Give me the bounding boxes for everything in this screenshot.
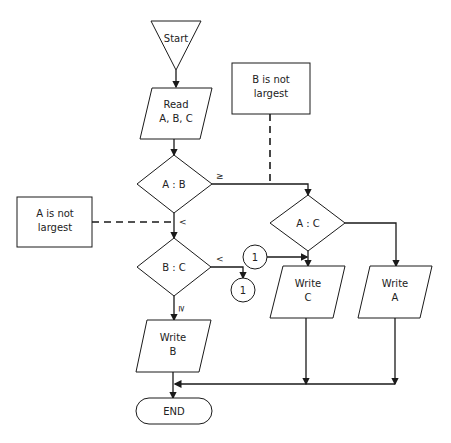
write-b-line2: B <box>170 346 177 357</box>
start-terminal: Start <box>151 21 201 70</box>
write-a-output: Write A <box>358 266 432 318</box>
decision-a-b-label: A : B <box>162 179 186 190</box>
write-c-output: Write C <box>270 266 345 318</box>
end-terminal: END <box>136 398 212 424</box>
note-a-line1: A is not <box>36 208 74 219</box>
decision-b-c: B : C <box>137 238 211 296</box>
read-line2: A, B, C <box>159 113 192 124</box>
bc-no-label: ≥ <box>177 305 187 313</box>
read-input: Read A, B, C <box>140 88 212 139</box>
note-a-not-largest: A is not largest <box>17 197 92 247</box>
arrow-ab-ac <box>212 184 308 195</box>
decision-b-c-label: B : C <box>162 262 186 273</box>
connector-in-label: 1 <box>252 252 258 263</box>
note-b-not-largest: B is not largest <box>232 63 310 114</box>
bc-yes-label: < <box>216 254 224 264</box>
note-b-line1: B is not <box>252 74 290 85</box>
read-line1: Read <box>163 99 188 110</box>
ab-no-label: < <box>179 217 187 227</box>
write-c-line1: Write <box>295 278 321 289</box>
write-b-line1: Write <box>160 332 186 343</box>
start-label: Start <box>164 33 189 44</box>
end-label: END <box>163 406 185 417</box>
note-a-line2: largest <box>38 222 73 233</box>
write-b-output: Write B <box>136 320 211 372</box>
decision-a-c-label: A : C <box>296 218 320 229</box>
write-a-line1: Write <box>382 278 408 289</box>
decision-a-c: A : C <box>270 195 345 251</box>
write-c-line2: C <box>305 292 312 303</box>
decision-a-b: A : B <box>137 155 212 213</box>
connector-out-label: 1 <box>240 285 246 296</box>
flowchart: Start Read A, B, C A : B ≥ < B is not la… <box>0 0 451 443</box>
arrow-ac-writea <box>345 223 396 266</box>
ab-yes-label: ≥ <box>216 171 224 181</box>
connector-out: 1 <box>231 278 255 302</box>
write-a-line2: A <box>392 292 399 303</box>
arrow-bc-connector <box>211 267 243 278</box>
note-b-line2: largest <box>254 88 289 99</box>
connector-in: 1 <box>243 245 267 269</box>
